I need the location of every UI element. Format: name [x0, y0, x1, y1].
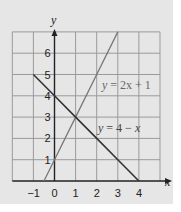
grid-lines	[12, 32, 160, 181]
y-tick-label: 5	[45, 69, 51, 81]
axes	[12, 29, 172, 184]
equation-label-2x-plus-1: y = 2x + 1	[101, 78, 151, 92]
y-tick-label: 3	[45, 111, 51, 123]
x-tick-label: 3	[115, 187, 121, 199]
x-tick-label: −1	[27, 187, 40, 199]
line-chart: −101234123456 y x y = 2x + 1 y = 4 − x	[0, 0, 181, 212]
x-tick-label: 2	[94, 187, 100, 199]
x-axis-label: x	[164, 175, 171, 189]
y-axis-label: y	[50, 13, 57, 27]
x-tick-label: 1	[73, 187, 79, 199]
y-tick-label: 4	[45, 90, 51, 102]
x-tick-label: 4	[136, 187, 142, 199]
y-tick-label: 2	[45, 132, 51, 144]
y-tick-label: 1	[45, 154, 51, 166]
x-tick-label: 0	[52, 187, 58, 199]
equation-label-4-minus-x: y = 4 − x	[97, 121, 141, 135]
y-tick-label: 6	[45, 47, 51, 59]
